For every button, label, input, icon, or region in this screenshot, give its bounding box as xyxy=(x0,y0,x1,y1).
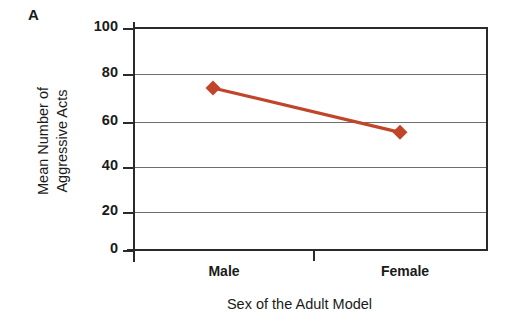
y-tick-80 xyxy=(123,74,134,76)
gridline-20 xyxy=(133,212,488,213)
data-series-layer xyxy=(0,0,521,336)
x-tick-female xyxy=(313,250,315,261)
series-markers xyxy=(206,80,408,139)
gridline-60 xyxy=(133,122,488,123)
gridline-80 xyxy=(133,74,488,75)
plot-frame-right xyxy=(486,28,488,251)
y-tick-20 xyxy=(123,212,134,214)
data-point-male xyxy=(206,80,221,95)
y-tick-label-100-text: 100 xyxy=(94,18,118,34)
y-tick-label-0-text: 0 xyxy=(110,240,118,256)
y-axis-title: Mean Number of Aggressive Acts xyxy=(34,26,72,256)
data-point-female xyxy=(393,125,408,140)
y-tick-label-40-text: 40 xyxy=(102,157,118,173)
y-tick-40 xyxy=(123,167,134,169)
x-tick-label-female: Female xyxy=(381,263,429,279)
y-axis-title-line-1: Mean Number of xyxy=(34,26,53,256)
x-axis-title-text: Sex of the Adult Model xyxy=(149,296,372,312)
x-tick-origin xyxy=(133,250,135,261)
gridline-40 xyxy=(133,167,488,168)
y-tick-label-60-text: 60 xyxy=(102,112,118,128)
y-axis-line xyxy=(133,22,135,262)
x-axis-line xyxy=(127,249,488,251)
y-tick-100 xyxy=(123,28,134,30)
x-axis-title: Sex of the Adult Model xyxy=(0,296,521,312)
y-tick-60 xyxy=(123,122,134,124)
y-tick-label-80-text: 80 xyxy=(102,64,118,80)
x-tick-label-male: Male xyxy=(208,263,239,279)
y-axis-title-line-2: Aggressive Acts xyxy=(53,26,72,256)
figure-panel-a: A Mean Number of Aggressive Acts 100 80 … xyxy=(0,0,521,336)
series-line xyxy=(213,88,400,132)
plot-frame-top xyxy=(133,27,488,29)
y-tick-label-20-text: 20 xyxy=(102,202,118,218)
panel-letter: A xyxy=(28,6,39,23)
